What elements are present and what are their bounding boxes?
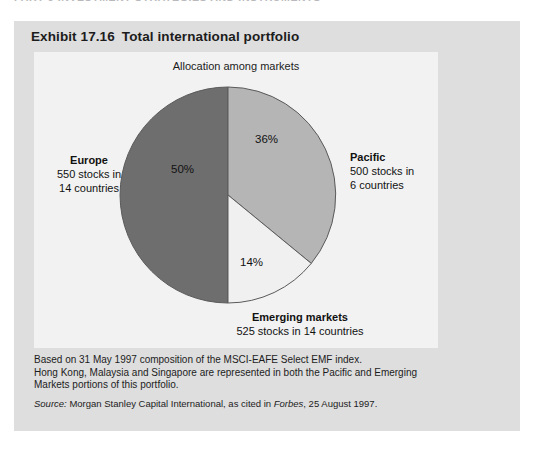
exhibit-note-line2: Hong Kong, Malaysia and Singapore are re… xyxy=(34,367,474,380)
source-text-before: Morgan Stanley Capital International, as… xyxy=(67,398,274,409)
source-label: Source: xyxy=(34,398,67,409)
chart-heading: Allocation among markets xyxy=(34,60,438,72)
callout-pacific-line2: 6 countries xyxy=(350,178,414,192)
running-head: PART 5 INVESTMENT STRATEGIES AND INSTRUM… xyxy=(14,0,444,5)
pie-chart: 50% 36% 14% xyxy=(118,85,338,305)
callout-europe-name: Europe xyxy=(48,153,130,167)
exhibit-note-line1: Based on 31 May 1997 composition of the … xyxy=(34,354,474,367)
callout-pacific: Pacific 500 stocks in 6 countries xyxy=(350,150,414,192)
callout-pacific-line1: 500 stocks in xyxy=(350,164,414,178)
callout-europe: Europe 550 stocks in 14 countries xyxy=(48,153,130,195)
exhibit-title-text: Total international portfolio xyxy=(122,29,299,44)
chart-panel: Allocation among markets 50% 36% 14% Eur… xyxy=(34,52,438,348)
pie-label-europe-percent: 50% xyxy=(171,163,194,175)
exhibit-card: Exhibit 17.16Total international portfol… xyxy=(14,21,520,431)
callout-pacific-name: Pacific xyxy=(350,150,414,164)
exhibit-source: Source: Morgan Stanley Capital Internati… xyxy=(34,398,474,409)
source-publication: Forbes xyxy=(274,398,304,409)
exhibit-note: Based on 31 May 1997 composition of the … xyxy=(34,354,474,392)
callout-europe-line2: 14 countries xyxy=(48,181,130,195)
exhibit-title: Exhibit 17.16Total international portfol… xyxy=(31,29,299,44)
callout-emerging-name: Emerging markets xyxy=(185,310,415,324)
callout-europe-line1: 550 stocks in xyxy=(48,167,130,181)
exhibit-number: Exhibit 17.16 xyxy=(31,29,115,44)
pie-label-pacific-percent: 36% xyxy=(255,133,278,145)
pie-label-emerging-percent: 14% xyxy=(240,256,263,268)
source-text-after: , 25 August 1997. xyxy=(303,398,377,409)
pie-slice-europe xyxy=(120,87,228,303)
pie-chart-svg xyxy=(118,85,338,305)
exhibit-note-line3: Markets portions of this portfolio. xyxy=(34,379,474,392)
callout-emerging-line1: 525 stocks in 14 countries xyxy=(185,324,415,338)
callout-emerging: Emerging markets 525 stocks in 14 countr… xyxy=(185,310,415,338)
